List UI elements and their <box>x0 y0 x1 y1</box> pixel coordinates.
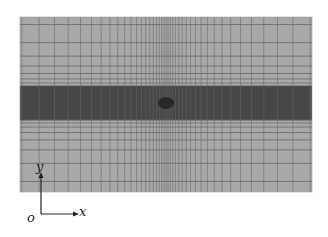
origin-label: o <box>27 211 35 224</box>
refinement-center <box>158 97 174 109</box>
mesh-grid <box>0 0 328 237</box>
y-axis-label: y <box>36 160 43 173</box>
x-axis-label: x <box>79 205 86 218</box>
mesh-figure: y x o <box>0 0 328 237</box>
